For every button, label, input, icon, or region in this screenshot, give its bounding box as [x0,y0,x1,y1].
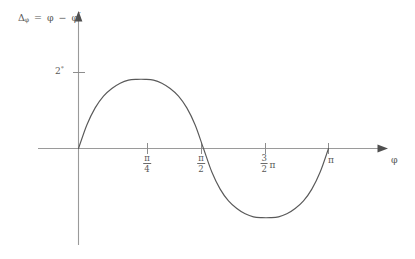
y-axis-label-equals: = [34,12,42,23]
y-axis-label-subscript: φ [25,16,30,24]
fraction-pi-over-2: π 2 [197,154,205,174]
x-axis-label: φ [391,155,398,165]
chart-plot-area [0,0,415,259]
y-axis-label-phi-prime: φ [71,12,78,23]
y-axis-label-phi: φ [47,12,54,23]
x-tick-label-pi-over-2: π 2 [197,154,205,174]
fraction-numerator: 3 [261,154,268,163]
pi-suffix: π [270,160,276,170]
pi-symbol: π [328,155,334,165]
fraction-pi-over-4: π 4 [143,154,151,174]
chart-figure: Δφ = φ − φ′ 2° π 4 π 2 3 2 π π φ [0,0,415,259]
x-tick-label-pi-over-4: π 4 [143,154,151,174]
y-axis-label-prime-mark: ′ [79,11,81,21]
y-axis-label-delta: Δ [18,12,25,23]
fraction-denominator: 2 [197,165,205,174]
x-tick-label-pi: π [328,156,334,165]
fraction-three-over-two: 3 2 [261,154,268,174]
degree-symbol: ° [61,65,64,73]
fraction-denominator: 2 [261,165,268,174]
y-axis-label-minus: − [59,12,67,23]
fraction-numerator: π [143,154,151,163]
x-tick-label-three-halves-pi: 3 2 π [261,154,276,174]
fraction-numerator: π [197,154,205,163]
fraction-denominator: 4 [143,165,151,174]
y-axis-label: Δφ = φ − φ′ [18,12,81,24]
y-tick-label-2deg: 2° [55,66,64,76]
x-axis-arrowhead [378,145,389,153]
